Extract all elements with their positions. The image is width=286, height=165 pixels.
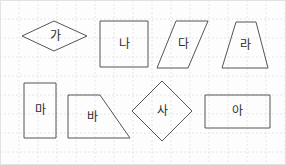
shape-ra-label: 라 bbox=[240, 39, 251, 51]
shape-ba-label: 바 bbox=[87, 111, 98, 123]
worksheet-canvas: 가나다라마바사아 bbox=[0, 0, 286, 165]
shape-na-label: 나 bbox=[119, 38, 130, 50]
shape-ba bbox=[68, 95, 130, 138]
shape-a-label: 아 bbox=[232, 105, 243, 117]
shape-sa-label: 사 bbox=[157, 105, 168, 117]
shape-ga-label: 가 bbox=[50, 30, 61, 42]
shapes-layer bbox=[0, 0, 286, 165]
shape-ma-label: 마 bbox=[35, 104, 46, 116]
shape-da-label: 다 bbox=[178, 38, 189, 50]
